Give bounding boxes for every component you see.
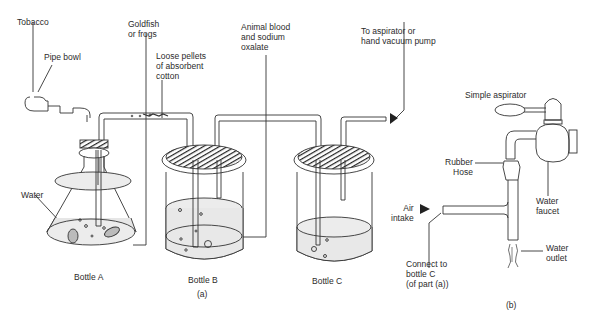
label-loose-pellets: Loose pellets of absorbent cotton (156, 51, 206, 81)
label-tobacco: Tobacco (17, 17, 49, 27)
label-rubber-hose: Rubber Hose (445, 157, 473, 177)
caption-part-b: (b) (506, 300, 516, 310)
label-connect-to-bottle-c: Connect to bottle C (of part (a)) (406, 259, 449, 289)
bottle-c (294, 145, 374, 261)
arrow-air-intake-icon (420, 204, 430, 214)
label-water: Water (21, 190, 43, 200)
bottle-a (47, 140, 136, 245)
label-animal-blood: Animal blood and sodium oxalate (241, 22, 290, 52)
caption-part-a: (a) (197, 289, 207, 299)
label-air-intake: Air intake (391, 203, 414, 223)
label-bottle-a: Bottle A (74, 272, 103, 282)
arrow-to-aspirator-icon (390, 113, 398, 124)
label-water-faucet: Water faucet (536, 196, 559, 216)
label-bottle-c: Bottle C (312, 276, 342, 286)
label-goldfish-frogs: Goldfish or frogs (128, 19, 159, 39)
tobacco-pipe (25, 97, 90, 122)
label-water-outlet: Water outlet (546, 243, 568, 263)
bottle-b (162, 145, 246, 259)
label-to-aspirator: To aspirator or hand vacuum pump (361, 26, 436, 46)
label-simple-aspirator: Simple aspirator (465, 90, 526, 100)
label-bottle-b: Bottle B (188, 275, 218, 285)
label-pipe-bowl: Pipe bowl (44, 52, 81, 62)
